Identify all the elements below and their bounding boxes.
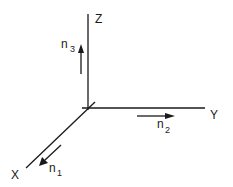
n2-label: n xyxy=(157,117,164,131)
x-axis-label: X xyxy=(11,168,19,182)
y-axis-label: Y xyxy=(210,108,218,122)
axes xyxy=(26,14,205,168)
z-axis-label: Z xyxy=(95,12,102,26)
coordinate-diagram: Z Y X n 3 n 2 n 1 xyxy=(0,0,233,187)
x-axis xyxy=(26,102,95,168)
n3-arrow-head-icon xyxy=(78,44,84,53)
n3-label: n xyxy=(61,37,68,51)
n3-subscript: 3 xyxy=(70,44,75,54)
n2-vector: n 2 xyxy=(137,113,175,135)
n3-vector: n 3 xyxy=(61,37,84,74)
n1-label: n xyxy=(49,161,56,175)
n1-vector: n 1 xyxy=(39,145,62,178)
n1-subscript: 1 xyxy=(57,168,62,178)
n2-subscript: 2 xyxy=(165,125,170,135)
n2-arrow-head-icon xyxy=(165,113,175,119)
